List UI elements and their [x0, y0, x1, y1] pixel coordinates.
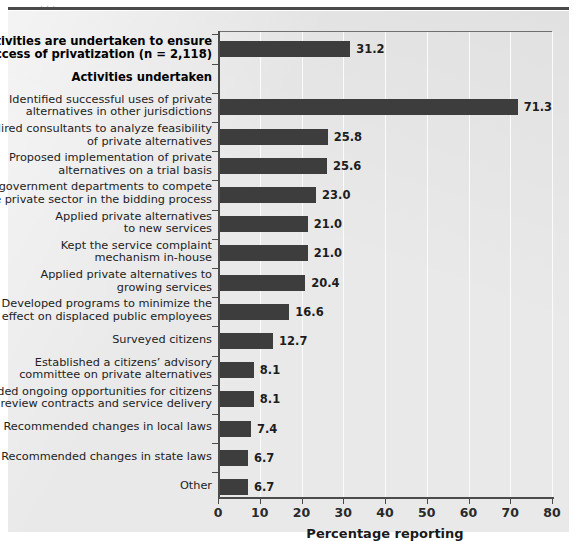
x-tick-label-80: 80: [532, 505, 572, 520]
bar[interactable]: [220, 187, 316, 203]
category-label: Other: [0, 480, 212, 493]
x-tick-20: [302, 499, 303, 504]
y-tick-9: [212, 297, 218, 298]
bar[interactable]: [220, 275, 305, 291]
y-tick-3: [212, 122, 218, 123]
y-tick-10: [212, 326, 218, 327]
x-tick-label-40: 40: [365, 505, 405, 520]
bar[interactable]: [220, 129, 328, 145]
y-tick-1: [212, 64, 218, 65]
caption-remnant: , , .: [0, 0, 577, 7]
plot-area: 01020304050607080 31.271.325.825.623.021…: [218, 31, 552, 497]
category-label: Surveyed citizens: [0, 334, 212, 347]
x-tick-40: [385, 499, 386, 504]
bar[interactable]: [220, 245, 308, 261]
category-label: Recommended changes in local laws: [0, 421, 212, 434]
bar-value-label: 23.0: [322, 187, 350, 203]
y-tick-12: [212, 385, 218, 386]
bar-value-label: 31.2: [356, 41, 384, 57]
x-tick-label-60: 60: [449, 505, 489, 520]
x-tick-70: [510, 499, 511, 504]
x-tick-80: [552, 499, 553, 504]
bar-value-label: 12.7: [279, 333, 307, 349]
category-label: Applied private alternatives to growing …: [0, 269, 212, 294]
bar-value-label: 21.0: [314, 216, 342, 232]
category-label: Applied private alternatives to new serv…: [0, 211, 212, 236]
y-tick-0: [212, 34, 218, 35]
y-tick-15: [212, 472, 218, 473]
category-labels-column: Activities are undertaken to ensure succ…: [22, 31, 212, 497]
category-label: Developed programs to minimize the effec…: [0, 298, 212, 323]
x-tick-50: [427, 499, 428, 504]
category-label: Proposed implementation of private alter…: [0, 152, 212, 177]
gridline-80: [552, 32, 553, 497]
category-group-header: Activities undertaken: [0, 71, 212, 84]
bar[interactable]: [220, 99, 518, 115]
bar[interactable]: [220, 41, 350, 57]
x-tick-label-20: 20: [282, 505, 322, 520]
category-label: Identified successful uses of private al…: [0, 94, 212, 119]
x-tick-label-10: 10: [240, 505, 280, 520]
bar[interactable]: [220, 450, 248, 466]
bar-value-label: 25.6: [333, 158, 361, 174]
category-label: Recommended changes in state laws: [0, 451, 212, 464]
y-tick-14: [212, 443, 218, 444]
x-axis-line: [218, 497, 554, 499]
x-tick-label-70: 70: [490, 505, 530, 520]
category-label: Established a citizens’ advisory committ…: [0, 357, 212, 382]
bar[interactable]: [220, 333, 273, 349]
category-label: Kept the service complaint mechanism in-…: [0, 240, 212, 265]
y-tick-11: [212, 356, 218, 357]
x-tick-10: [260, 499, 261, 504]
category-label: Allowed government departments to compet…: [0, 181, 212, 206]
bar[interactable]: [220, 158, 327, 174]
chart-panel: 01020304050607080 31.271.325.825.623.021…: [8, 11, 569, 532]
x-tick-0: [218, 499, 219, 504]
bar[interactable]: [220, 362, 254, 378]
bar[interactable]: [220, 216, 308, 232]
x-tick-label-0: 0: [198, 505, 238, 520]
x-tick-label-30: 30: [323, 505, 363, 520]
y-tick-6: [212, 210, 218, 211]
bar-value-label: 8.1: [260, 391, 280, 407]
bar[interactable]: [220, 421, 251, 437]
x-tick-label-50: 50: [407, 505, 447, 520]
category-label: Provided ongoing opportunities for citiz…: [0, 386, 212, 411]
bar-value-label: 6.7: [254, 450, 274, 466]
bar-value-label: 6.7: [254, 479, 274, 495]
y-tick-7: [212, 239, 218, 240]
category-label: Hired consultants to analyze feasibility…: [0, 123, 212, 148]
y-tick-8: [212, 268, 218, 269]
bar-value-label: 25.8: [334, 129, 362, 145]
bar-value-label: 16.6: [295, 304, 323, 320]
y-tick-13: [212, 414, 218, 415]
x-tick-30: [343, 499, 344, 504]
x-tick-60: [469, 499, 470, 504]
bar-value-label: 7.4: [257, 421, 277, 437]
bar[interactable]: [220, 391, 254, 407]
category-label: Activities are undertaken to ensure succ…: [0, 35, 212, 60]
bar-value-label: 71.3: [524, 99, 552, 115]
y-tick-5: [212, 180, 218, 181]
top-rule-divider: [8, 7, 569, 10]
bar-value-label: 8.1: [260, 362, 280, 378]
y-tick-4: [212, 151, 218, 152]
y-tick-2: [212, 93, 218, 94]
bar[interactable]: [220, 304, 289, 320]
x-axis-title: Percentage reporting: [218, 526, 552, 541]
bar-value-label: 21.0: [314, 245, 342, 261]
bar[interactable]: [220, 479, 248, 495]
bar-value-label: 20.4: [311, 275, 339, 291]
